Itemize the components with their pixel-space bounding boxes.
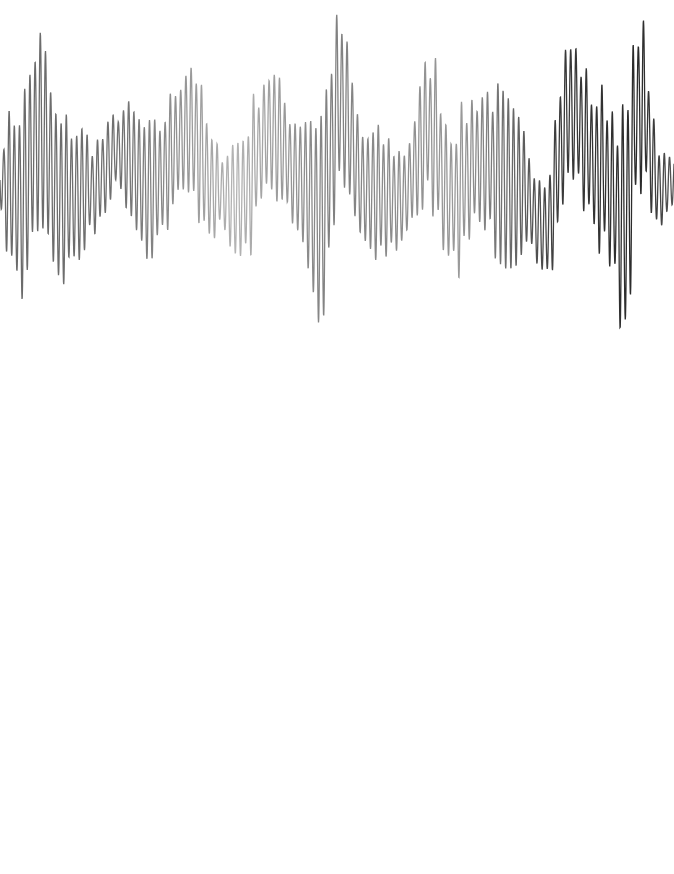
waveform-stroke (0, 15, 674, 328)
waveform-graphic (0, 0, 674, 350)
waveform-region (0, 0, 674, 350)
blank-background (0, 350, 674, 874)
